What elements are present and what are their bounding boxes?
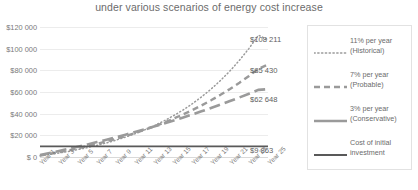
x-axis-tick-label: Year 1	[38, 148, 56, 166]
x-axis-tick-label: Year 7	[95, 148, 113, 166]
legend-label-line1: Cost of initial	[350, 138, 412, 148]
legend-label-line2: (Probable)	[350, 80, 412, 90]
x-axis-tick-label: Year 15	[171, 145, 192, 166]
x-axis-tick-label: Year 25	[266, 145, 287, 166]
legend-swatch-dotted	[314, 41, 347, 45]
legend-swatch-solid	[314, 143, 347, 147]
x-axis-tick-label: Year 11	[133, 145, 154, 166]
legend-label-line2: (Conservative)	[350, 114, 412, 124]
legend-label-7-percent: 7% per year (Probable)	[350, 70, 412, 89]
chart-legend: 11% per year (Historical) 7% per year (P…	[307, 25, 412, 170]
legend-label-11-percent: 11% per year (Historical)	[350, 36, 412, 55]
chart-container: under various scenarios of energy cost i…	[0, 0, 418, 190]
x-axis-tick-label: Year 13	[152, 145, 173, 166]
x-axis-tick-label: Year 23	[247, 145, 268, 166]
legend-label-line1: 3% per year	[350, 104, 412, 114]
legend-swatch-long-dash	[314, 109, 347, 113]
legend-label-line1: 11% per year	[350, 36, 412, 46]
legend-label-line2: (Historical)	[350, 46, 412, 56]
legend-swatch-dashed	[314, 75, 347, 79]
legend-label-3-percent: 3% per year (Conservative)	[350, 104, 412, 123]
legend-label-initial-investment: Cost of initial investment	[350, 138, 412, 157]
x-axis-tick-label: Year 9	[114, 148, 132, 166]
legend-label-line2: investment	[350, 148, 412, 158]
x-axis-tick-label: Year 3	[57, 148, 75, 166]
legend-label-line1: 7% per year	[350, 70, 412, 80]
x-axis-tick-label: Year 5	[76, 148, 94, 166]
x-axis-tick-label: Year 17	[190, 145, 211, 166]
x-axis-tick-label: Year 19	[209, 145, 230, 166]
x-axis-tick-label: Year 21	[228, 145, 249, 166]
